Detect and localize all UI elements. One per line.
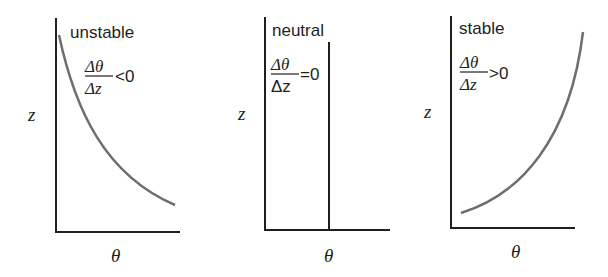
fraction-denominator: Δz [84,79,102,98]
fraction-denominator: Δz [271,77,291,96]
panel-title: unstable [70,23,134,42]
fraction-numerator: Δθ [459,53,478,72]
x-axis-label: θ [111,245,120,266]
x-axis-label: θ [324,245,333,266]
fraction-denominator: Δz [459,75,477,94]
panel-title: neutral [272,21,324,40]
y-axis-label: z [237,103,246,124]
panel-title: stable [459,19,504,38]
fraction-numerator: Δθ [270,55,289,74]
theta-profile-curve [461,32,583,213]
panel-unstable: unstable Δθ Δz <0 z θ [27,18,180,266]
panel-stable: stable Δθ Δz >0 z θ [423,16,583,262]
fraction-numerator: Δθ [84,57,103,76]
x-axis-label: θ [511,241,520,262]
relation-text: <0 [115,67,134,86]
theta-profile-curve [59,35,175,205]
relation-text: >0 [489,64,508,83]
relation-text: =0 [300,65,319,84]
y-axis-label: z [27,104,36,125]
stability-diagram: unstable Δθ Δz <0 z θ neutral Δθ Δz =0 z… [0,0,608,277]
y-axis-label: z [423,101,432,122]
panel-neutral: neutral Δθ Δz =0 z θ [237,17,390,266]
